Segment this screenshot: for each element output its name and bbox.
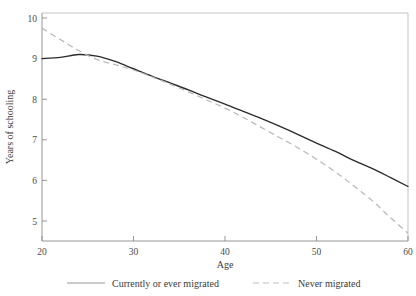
y-tick-label-9: 9 — [32, 54, 37, 64]
y-tick-label-5: 5 — [32, 217, 37, 227]
series-line-currently-or-ever-migrated — [42, 55, 408, 187]
x-axis-ticks — [42, 236, 408, 241]
chart-legend: Currently or ever migrated Never migrate… — [67, 278, 360, 289]
series-line-never-migrated — [42, 28, 408, 233]
x-axis-tick-labels: 20 30 40 50 60 — [37, 247, 413, 257]
x-tick-label-50: 50 — [312, 247, 322, 257]
y-tick-label-6: 6 — [32, 176, 37, 186]
x-tick-label-30: 30 — [129, 247, 139, 257]
plot-frame — [42, 13, 408, 241]
y-tick-label-8: 8 — [32, 95, 37, 105]
y-tick-label-10: 10 — [28, 14, 38, 24]
legend-label-never-migrated: Never migrated — [298, 278, 360, 289]
line-chart: 10 9 8 7 6 5 20 30 40 50 60 Age Years of… — [0, 0, 416, 296]
legend-label-currently-or-ever-migrated: Currently or ever migrated — [112, 278, 219, 289]
x-tick-label-40: 40 — [220, 247, 230, 257]
y-axis-ticks — [42, 18, 47, 221]
x-axis-title: Age — [217, 259, 234, 270]
chart-figure: 10 9 8 7 6 5 20 30 40 50 60 Age Years of… — [0, 0, 416, 296]
x-tick-label-20: 20 — [37, 247, 47, 257]
y-tick-label-7: 7 — [32, 135, 37, 145]
y-axis-title: Years of schooling — [4, 90, 15, 165]
x-tick-label-60: 60 — [403, 247, 413, 257]
y-axis-tick-labels: 10 9 8 7 6 5 — [28, 14, 38, 227]
